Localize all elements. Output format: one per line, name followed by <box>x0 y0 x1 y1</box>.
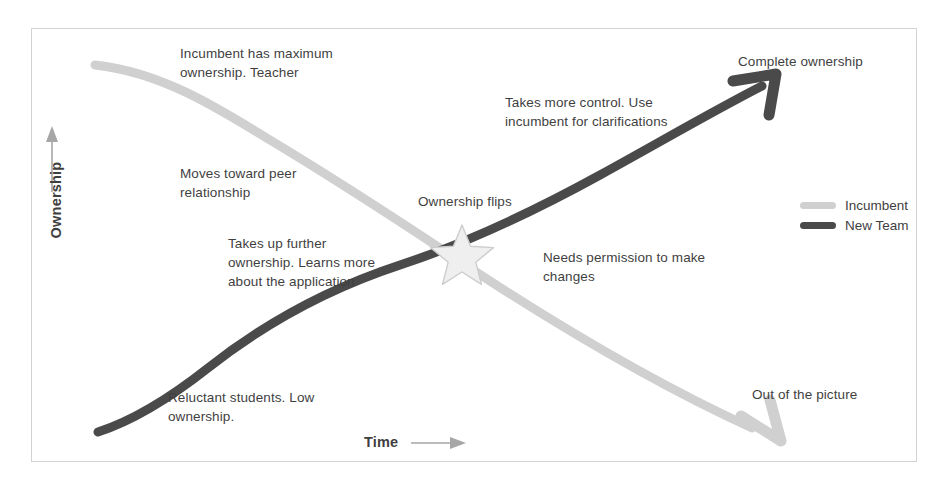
legend-label-incumbent: Incumbent <box>845 198 908 213</box>
annotation-incumbent-maximum: Incumbent has maximum ownership. Teacher <box>180 44 333 82</box>
legend: Incumbent New Team <box>800 198 909 233</box>
legend-swatch-incumbent <box>800 202 836 209</box>
label-complete-ownership: Complete ownership <box>738 52 863 71</box>
legend-item-new-team: New Team <box>800 218 909 233</box>
legend-swatch-new-team <box>800 222 836 229</box>
diagram-root: Incumbent has maximum ownership. Teacher… <box>0 0 949 491</box>
diagram-canvas <box>0 0 949 491</box>
legend-label-new-team: New Team <box>845 218 909 233</box>
label-out-of-the-picture: Out of the picture <box>752 385 857 404</box>
annotation-needs-permission: Needs permission to make changes <box>543 248 705 286</box>
annotation-reluctant-students: Reluctant students. Low ownership. <box>168 388 314 426</box>
annotation-peer-relationship: Moves toward peer relationship <box>180 164 297 202</box>
x-axis-label: Time <box>364 434 398 450</box>
x-axis-arrow-icon <box>411 437 466 449</box>
legend-item-incumbent: Incumbent <box>800 198 909 213</box>
y-axis-label: Ownership <box>48 140 64 260</box>
incumbent-arrowhead <box>741 400 781 441</box>
annotation-takes-up-ownership: Takes up further ownership. Learns more … <box>228 234 375 291</box>
label-ownership-flips: Ownership flips <box>418 192 512 211</box>
annotation-takes-more-control: Takes more control. Use incumbent for cl… <box>505 93 668 131</box>
